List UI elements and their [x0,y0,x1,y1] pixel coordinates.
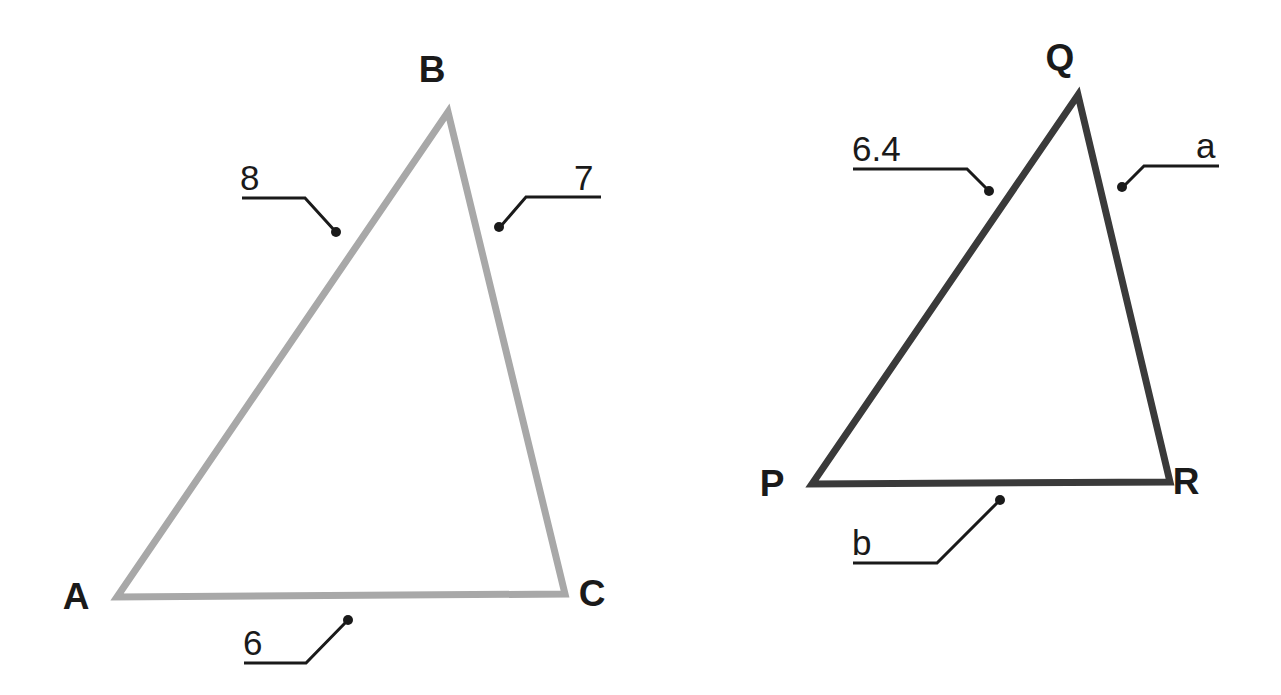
leader-dot-ac [343,615,353,625]
side-label-pr: b [852,495,1005,563]
leader-dot-ab [331,227,341,237]
leader-line-ab [242,198,335,231]
leader-line-pr [853,501,999,563]
leader-dot-bc [494,222,504,232]
side-length-ab: 8 [240,158,259,197]
geometry-figure: A B C 8 7 6 [0,0,1281,695]
leader-dot-pq [984,186,994,196]
side-length-qr: a [1196,126,1216,165]
side-label-ac: 6 [243,615,353,663]
leader-line-pq [853,169,988,190]
leader-dot-qr [1117,182,1127,192]
vertex-label-r: R [1173,461,1200,502]
vertex-label-b: B [419,49,446,90]
side-label-ab: 8 [240,158,341,237]
side-label-bc: 7 [494,158,601,232]
side-label-qr: a [1117,126,1219,192]
vertex-label-a: A [63,576,90,617]
vertex-label-c: C [579,573,606,614]
side-length-ac: 6 [243,623,262,662]
side-label-pq: 6.4 [852,129,994,196]
triangle-pqr-group: P Q R 6.4 a b [760,37,1219,563]
leader-line-bc [501,197,601,226]
side-length-bc: 7 [574,158,593,197]
leader-dot-pr [995,495,1005,505]
side-length-pr: b [852,523,871,562]
triangle-abc-outline [117,112,565,597]
vertex-label-p: P [760,463,785,504]
vertex-label-q: Q [1046,37,1075,78]
side-length-pq: 6.4 [852,129,901,168]
leader-line-qr [1124,166,1219,186]
figure-canvas: A B C 8 7 6 [0,0,1281,695]
triangle-abc-group: A B C 8 7 6 [63,49,606,663]
